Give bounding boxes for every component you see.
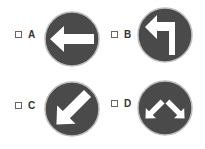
- checkbox-a[interactable]: [15, 31, 22, 38]
- option-label-c: C: [28, 101, 35, 111]
- arrow-turn-left-sign-icon: [137, 7, 193, 63]
- arrow-down-left-sign-icon: [44, 81, 100, 137]
- checkbox-b[interactable]: [111, 31, 118, 38]
- arrow-left-sign-icon: [44, 11, 100, 67]
- arrows-split-down-sign-icon: [137, 80, 193, 136]
- checkbox-c[interactable]: [15, 102, 22, 109]
- option-label-d: D: [124, 99, 131, 109]
- checkbox-d[interactable]: [111, 100, 118, 107]
- option-label-b: B: [124, 30, 131, 40]
- option-label-a: A: [28, 30, 35, 40]
